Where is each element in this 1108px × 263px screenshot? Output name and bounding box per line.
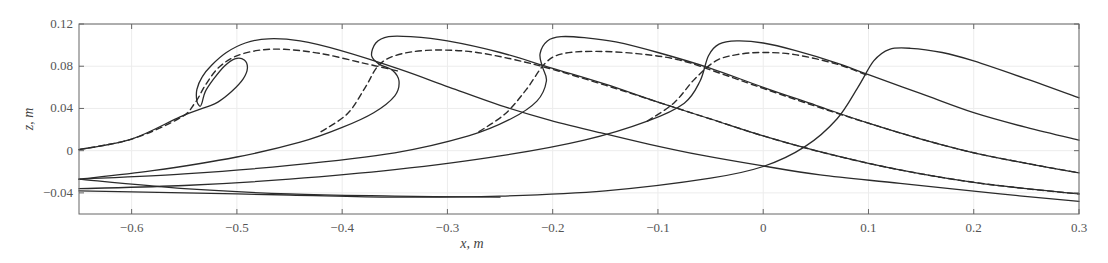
series-solid-curve (79, 179, 500, 197)
y-tick-label: 0 (67, 143, 74, 158)
x-tick-label: −0.3 (436, 220, 460, 235)
series-dashed-curve (321, 50, 1079, 194)
x-axis-label: x, m (459, 236, 483, 251)
wave-profile-chart: −0.6−0.5−0.4−0.3−0.2−0.100.10.20.3 −0.04… (0, 0, 1108, 263)
x-tick-label: −0.6 (120, 220, 144, 235)
y-tick-label: 0.04 (50, 100, 73, 115)
x-tick-label: 0.1 (860, 220, 876, 235)
x-tick-label: −0.4 (330, 220, 354, 235)
x-tick-label: −0.1 (646, 220, 670, 235)
grid-lines (79, 24, 1079, 214)
series-dashed-curve (479, 51, 1079, 172)
series-dashed-curve (79, 49, 400, 150)
x-tick-label: −0.2 (541, 220, 565, 235)
plot-frame (79, 24, 1079, 214)
series-solid-curve (79, 39, 1079, 202)
y-tick-label: −0.04 (43, 185, 74, 200)
wave-curves (79, 36, 1079, 201)
x-axis-ticks: −0.6−0.5−0.4−0.3−0.2−0.100.10.20.3 (120, 24, 1087, 235)
y-tick-label: 0.12 (50, 16, 73, 31)
series-solid-curve (79, 36, 1079, 179)
x-tick-label: −0.5 (225, 220, 249, 235)
series-solid-curve (79, 41, 1079, 189)
x-tick-label: 0.3 (1071, 220, 1087, 235)
y-tick-label: 0.08 (50, 58, 73, 73)
y-axis-label: z, m (21, 108, 36, 132)
x-tick-label: 0.2 (966, 220, 982, 235)
x-tick-label: 0 (760, 220, 767, 235)
